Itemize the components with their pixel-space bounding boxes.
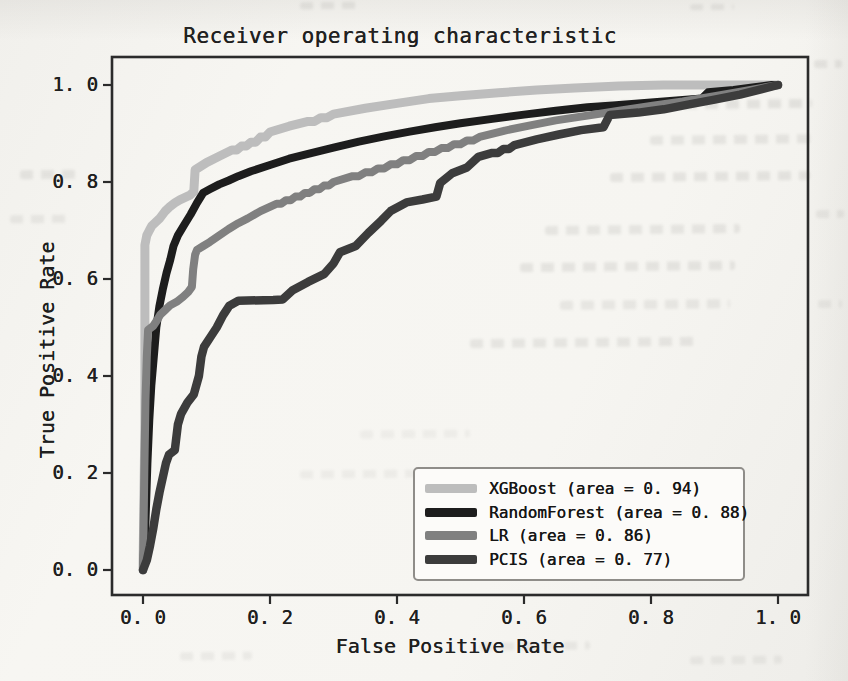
x-tick-label: 0. 6 xyxy=(490,606,558,628)
y-tick-label: 0. 6 xyxy=(26,267,98,289)
legend-label: XGBoost (area = 0. 94) xyxy=(489,479,701,498)
legend-item-pcis: PCIS (area = 0. 77) xyxy=(425,548,733,572)
legend-swatch xyxy=(425,531,477,540)
chart-title: Receiver operating characteristic xyxy=(100,24,700,48)
legend-label: PCIS (area = 0. 77) xyxy=(489,550,672,569)
x-tick-label: 0. 2 xyxy=(236,606,304,628)
x-axis-label: False Positive Rate xyxy=(330,634,570,658)
legend-item-lr: LR (area = 0. 86) xyxy=(425,524,733,548)
x-tick-label: 1. 0 xyxy=(744,606,812,628)
legend-label: RandomForest (area = 0. 88) xyxy=(489,503,749,522)
legend-swatch xyxy=(425,484,477,493)
legend-swatch xyxy=(425,508,477,517)
y-tick-label: 1. 0 xyxy=(26,73,98,95)
x-tick-label: 0. 8 xyxy=(617,606,685,628)
x-tick-label: 0. 4 xyxy=(363,606,431,628)
legend-item-randomforest: RandomForest (area = 0. 88) xyxy=(425,501,733,525)
roc-figure: Receiver operating characteristic False … xyxy=(0,0,848,681)
legend-label: LR (area = 0. 86) xyxy=(489,526,653,545)
y-tick-label: 0. 4 xyxy=(26,364,98,386)
y-tick-label: 0. 8 xyxy=(26,170,98,192)
legend: XGBoost (area = 0. 94)RandomForest (area… xyxy=(413,467,745,581)
y-tick-label: 0. 0 xyxy=(26,558,98,580)
legend-swatch xyxy=(425,555,477,564)
y-tick-label: 0. 2 xyxy=(26,461,98,483)
legend-item-xgboost: XGBoost (area = 0. 94) xyxy=(425,477,733,501)
x-tick-label: 0. 0 xyxy=(109,606,177,628)
